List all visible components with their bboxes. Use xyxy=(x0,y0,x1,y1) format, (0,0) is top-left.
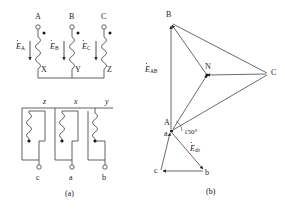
phasor-line-c-a xyxy=(161,133,170,170)
terminal-a-circle xyxy=(70,165,74,169)
coil-C xyxy=(102,37,107,69)
caption-a: (a) xyxy=(65,190,74,198)
label-terminal-A: A xyxy=(35,13,41,21)
terminal-b-circle xyxy=(103,165,107,169)
terminal-C-circle xyxy=(102,25,106,29)
label-phasor-b: b xyxy=(205,169,209,177)
coil-y xyxy=(93,113,98,139)
coil-B xyxy=(70,37,75,69)
emf-AB-subscript: AB xyxy=(150,68,158,74)
caption-b: (b) xyxy=(206,188,215,196)
label-phasor-a: a xyxy=(164,130,168,138)
polarity-dot-A xyxy=(43,32,46,35)
emf-C-symbol: E xyxy=(82,43,87,51)
label-phasor-c: c xyxy=(154,167,158,175)
emf-C-subscript: C xyxy=(87,45,91,51)
label-terminal-c: c xyxy=(36,174,40,182)
label-terminal-X: X xyxy=(41,66,47,74)
label-winding-y: y xyxy=(105,98,109,106)
label-phasor-B: B xyxy=(166,11,171,19)
phasor-node-N xyxy=(205,73,208,76)
emf-B-subscript: B xyxy=(55,45,59,51)
emf-AB-symbol: E xyxy=(145,66,150,74)
emf-B-symbol: E xyxy=(50,43,55,51)
polarity-dot-B xyxy=(77,32,80,35)
coil-x xyxy=(60,113,65,139)
coil-z xyxy=(27,113,32,139)
label-angle-150: 150° xyxy=(184,129,197,136)
polarity-dot-C xyxy=(109,32,112,35)
terminal-c-circle xyxy=(37,165,41,169)
phasor-node-A xyxy=(170,129,173,132)
emf-ab-symbol: E xyxy=(190,145,195,153)
figure-drawing xyxy=(0,0,285,216)
terminal-A-circle xyxy=(36,25,40,29)
label-emf-C: EC xyxy=(82,43,91,51)
polarity-dot-x xyxy=(60,139,63,142)
label-terminal-a: a xyxy=(69,174,73,182)
label-emf-B: EB xyxy=(50,43,59,51)
label-emf-A: EA xyxy=(16,43,25,51)
polarity-dot-z xyxy=(27,139,30,142)
label-phasor-N: N xyxy=(205,63,211,71)
label-phasor-A: A xyxy=(164,119,170,127)
label-terminal-B: B xyxy=(69,13,74,21)
label-terminal-C: C xyxy=(101,13,106,21)
coil-A xyxy=(36,37,41,69)
label-phasor-C: C xyxy=(271,69,276,77)
terminal-B-circle xyxy=(70,25,74,29)
label-winding-x: x xyxy=(74,98,78,106)
label-emf-AB: EAB xyxy=(145,66,158,74)
phasor-N-to-C xyxy=(207,74,266,75)
phasor-line-C-A xyxy=(173,75,267,130)
phasor-N-to-A xyxy=(173,75,207,129)
emf-A-subscript: A xyxy=(21,45,25,51)
phasor-line-B-C xyxy=(173,24,267,73)
polarity-dot-y xyxy=(93,139,96,142)
label-winding-z: z xyxy=(43,98,46,106)
label-terminal-Z: Z xyxy=(107,66,112,74)
phasor-diagram xyxy=(161,24,267,171)
label-terminal-b: b xyxy=(102,174,106,182)
emf-ab-subscript: ab xyxy=(195,147,200,153)
secondary-circuit xyxy=(22,108,113,169)
emf-A-symbol: E xyxy=(16,43,21,51)
label-terminal-Y: Y xyxy=(75,66,81,74)
figure-root: A B C X Y Z EA EB EC z x y c a b (a) B C… xyxy=(0,0,285,216)
label-emf-ab: Eab xyxy=(190,145,200,153)
